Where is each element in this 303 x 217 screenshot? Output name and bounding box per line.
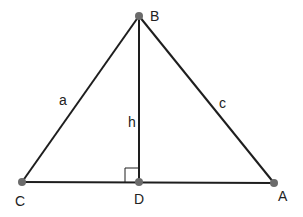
point-b xyxy=(135,12,143,20)
label-b: B xyxy=(150,8,159,24)
side-c xyxy=(139,16,274,183)
label-side-a: a xyxy=(59,92,67,108)
label-a: A xyxy=(278,188,288,204)
label-d: D xyxy=(134,191,144,207)
diagram-canvas: B C D A a c h xyxy=(0,0,303,217)
base-ca xyxy=(22,182,274,183)
side-a xyxy=(22,16,139,182)
triangle-diagram: B C D A a c h xyxy=(0,0,303,217)
label-c: C xyxy=(15,193,25,209)
point-a xyxy=(270,179,278,187)
label-altitude-h: h xyxy=(128,114,136,130)
point-d xyxy=(135,178,143,186)
label-side-c: c xyxy=(219,95,226,111)
point-c xyxy=(18,178,26,186)
